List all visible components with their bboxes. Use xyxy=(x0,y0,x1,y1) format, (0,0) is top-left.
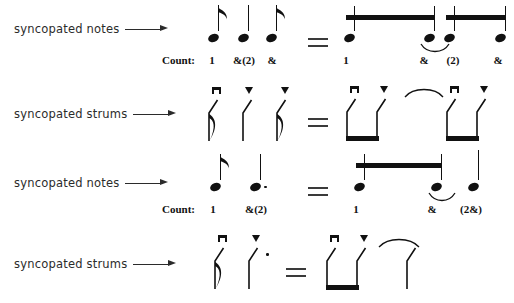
upstroke-icon xyxy=(245,87,253,94)
count-label-2: Count: xyxy=(162,203,195,215)
count-value: 1 xyxy=(346,203,366,215)
count-value: & xyxy=(414,54,434,66)
downstroke-icon xyxy=(212,87,221,94)
beam-bar xyxy=(356,163,442,168)
beam-bar xyxy=(346,136,379,141)
eighth-flag-icon xyxy=(218,8,230,24)
tie-arc xyxy=(378,236,420,248)
upstroke-icon xyxy=(360,235,368,242)
equals-sign-4 xyxy=(286,266,306,280)
row4-label: syncopated strums xyxy=(14,257,127,271)
right-arrow-icon xyxy=(125,178,171,188)
count-value: & xyxy=(262,54,282,66)
equals-sign-1 xyxy=(308,36,328,50)
downstroke-icon xyxy=(450,86,459,93)
count-value: & xyxy=(422,203,442,215)
count-value: 1 xyxy=(200,54,224,66)
count-value: (2) xyxy=(440,54,466,66)
beam-bar xyxy=(346,15,435,20)
row1-label-group: syncopated notes xyxy=(14,22,171,36)
figure-canvas: syncopated notes Count: 1 &(2) & xyxy=(0,0,514,303)
row3-label-group: syncopated notes xyxy=(14,176,171,190)
eighth-flag-icon xyxy=(276,8,288,24)
augmentation-dot-icon xyxy=(264,186,267,189)
augmentation-dot-icon xyxy=(266,253,269,256)
equals-sign-2 xyxy=(308,116,328,130)
equals-sign-3 xyxy=(308,185,328,199)
row-syncopated-strums-2: syncopated strums xyxy=(0,230,514,303)
row1-label: syncopated notes xyxy=(14,22,119,36)
right-arrow-icon xyxy=(133,109,179,119)
downstroke-icon xyxy=(350,86,359,93)
row2-label: syncopated strums xyxy=(14,107,127,121)
downstroke-icon xyxy=(218,235,227,242)
upstroke-icon xyxy=(252,235,260,242)
count-value: (2&) xyxy=(454,203,488,215)
upstroke-icon xyxy=(480,86,488,93)
row-syncopated-strums-1: syncopated strums xyxy=(0,80,514,155)
downstroke-icon xyxy=(330,235,339,242)
count-label-1: Count: xyxy=(162,54,195,66)
count-value: 1 xyxy=(202,203,224,215)
row4-label-group: syncopated strums xyxy=(14,257,179,271)
count-value: & xyxy=(488,54,508,66)
row-syncopated-notes-2: syncopated notes Count: 1 &(2) xyxy=(0,155,514,230)
right-arrow-icon xyxy=(133,259,179,269)
row3-label: syncopated notes xyxy=(14,176,119,190)
row2-label-group: syncopated strums xyxy=(14,107,179,121)
row-syncopated-notes-1: syncopated notes Count: 1 &(2) & xyxy=(0,0,514,80)
right-arrow-icon xyxy=(125,24,171,34)
beam-bar xyxy=(446,136,479,141)
count-value: 1 xyxy=(336,54,356,66)
eighth-flag-icon xyxy=(220,157,232,173)
count-value: &(2) xyxy=(228,54,260,66)
tie-arc xyxy=(404,86,444,98)
upstroke-icon xyxy=(281,87,289,94)
count-value: &(2) xyxy=(240,203,272,215)
upstroke-icon xyxy=(380,86,388,93)
beam-bar xyxy=(326,285,359,290)
